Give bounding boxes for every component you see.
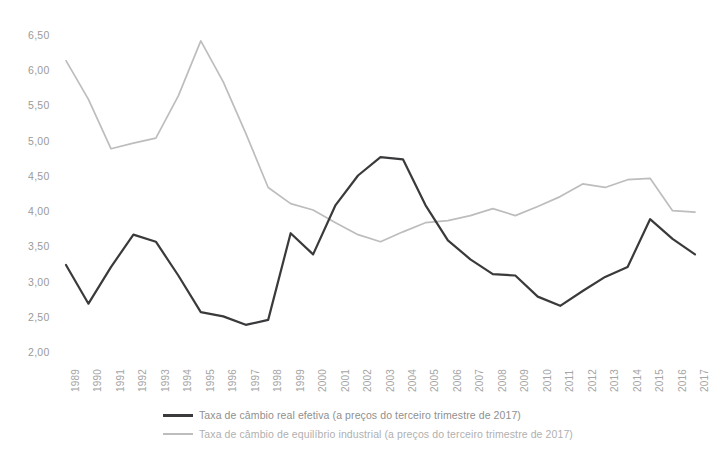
x-tick-label: 2008 [497,369,508,392]
legend-swatch-dark-icon [163,414,193,417]
x-tick-label: 2000 [317,369,328,392]
x-tick-label: 2001 [340,369,351,392]
x-tick-label: 2016 [677,369,688,392]
x-tick-label: 1998 [272,369,283,392]
x-tick-label: 1993 [160,369,171,392]
x-tick-label: 2010 [542,369,553,392]
x-tick-label: 2011 [564,370,575,392]
x-tick-label: 2013 [609,369,620,392]
x-tick-label: 2015 [654,369,665,392]
x-tick-label: 2014 [632,369,643,392]
x-tick-label: 2007 [474,369,485,392]
x-tick-label: 1989 [70,369,81,392]
legend-item-equilibrio-industrial: Taxa de câmbio de equilíbrio industrial … [163,428,573,440]
x-tick-label: 2017 [699,369,710,392]
x-tick-label: 2005 [429,369,440,392]
x-tick-label: 2004 [407,369,418,392]
x-tick-label: 1999 [295,369,306,392]
x-tick-label: 2012 [587,369,598,392]
x-tick-label: 2003 [385,369,396,392]
x-tick-label: 1996 [227,369,238,392]
x-tick-label: 2002 [362,369,373,392]
x-tick-label: 2006 [452,369,463,392]
x-tick-label: 1991 [115,369,126,392]
legend-swatch-light-icon [163,433,193,435]
x-tick-label: 1992 [137,369,148,392]
legend-label-equilibrio-industrial: Taxa de câmbio de equilíbrio industrial … [199,428,573,440]
x-tick-label: 2009 [519,369,530,392]
series-line-equilibrio-industrial [66,41,695,242]
x-tick-label: 1997 [250,369,261,392]
line-chart: 6,506,005,505,004,504,003,503,002,502,00… [0,0,720,455]
x-tick-label: 1990 [92,369,103,392]
legend-label-cambio-real-efetiva: Taxa de câmbio real efetiva (a preços do… [199,409,521,421]
x-tick-label: 1995 [205,369,216,392]
legend-item-cambio-real-efetiva: Taxa de câmbio real efetiva (a preços do… [163,409,521,421]
x-tick-label: 1994 [182,369,193,392]
